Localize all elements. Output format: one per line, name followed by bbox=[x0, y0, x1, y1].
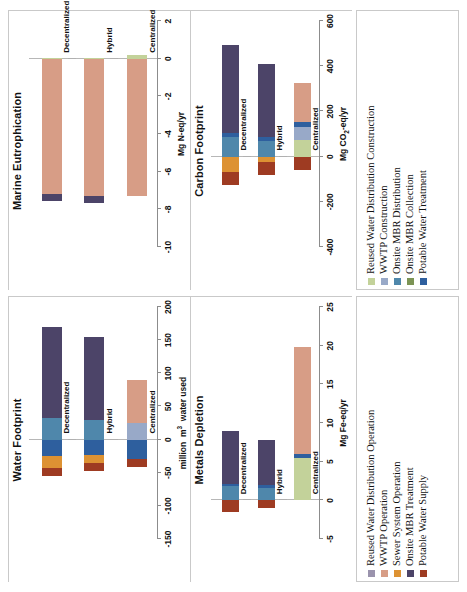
legend-item[interactable]: Potable Water Supply bbox=[417, 303, 429, 577]
axis-tick-label: -8 bbox=[163, 193, 173, 225]
chart-title: Marine Eutrophication bbox=[11, 11, 23, 291]
chart-title: Water Footprint bbox=[11, 297, 23, 583]
axis-tick-label: 200 bbox=[325, 95, 335, 127]
axis-tick-label: 200 bbox=[163, 291, 173, 323]
bar-segment bbox=[258, 440, 275, 486]
legend-item[interactable]: Onsite MBR Distribution bbox=[391, 17, 403, 285]
axis-tick bbox=[157, 133, 161, 134]
bar-segment bbox=[222, 137, 239, 156]
bar-segment bbox=[294, 454, 311, 458]
category-tick bbox=[243, 499, 251, 500]
axis-tick bbox=[319, 499, 323, 500]
legend-label: Onsite MBR Distribution bbox=[391, 167, 403, 274]
bar-segment bbox=[222, 157, 239, 173]
legend-item[interactable]: Reused Water Distribution Operation bbox=[365, 303, 377, 577]
axis-tick-label: 5 bbox=[325, 446, 335, 478]
legend-item[interactable]: Potable Water Treatment bbox=[417, 17, 429, 285]
bar-segment bbox=[84, 59, 104, 196]
legend-swatch-icon bbox=[394, 570, 401, 577]
panel-marine-eutrophication: Marine EutrophicationDecentralizedHybrid… bbox=[8, 10, 190, 290]
axis-tick-label: 600 bbox=[325, 5, 335, 37]
axis-tick bbox=[157, 505, 161, 506]
bar-segment bbox=[258, 500, 275, 508]
legend-swatch-icon bbox=[420, 570, 427, 577]
legend-item[interactable]: Onsite MBR Collection bbox=[404, 17, 416, 285]
bar-segment bbox=[258, 141, 275, 157]
category-label: Decentralized bbox=[62, 1, 71, 53]
bar-segment bbox=[84, 463, 104, 471]
axis-tick-label: -2 bbox=[163, 80, 173, 112]
axis-tick-label: 400 bbox=[325, 50, 335, 82]
category-label: Decentralized bbox=[62, 382, 71, 434]
bar-segment bbox=[258, 137, 275, 141]
legend-label: WWTP Construction bbox=[378, 185, 390, 274]
bar-group bbox=[258, 21, 275, 247]
axis-title: Mg N-eq/yr bbox=[176, 21, 186, 247]
bar-segment bbox=[42, 418, 62, 440]
bar-segment bbox=[222, 133, 239, 137]
value-axis bbox=[319, 21, 320, 247]
category-tick bbox=[110, 58, 118, 59]
axis-tick bbox=[319, 110, 323, 111]
legend-item[interactable]: Reused Water Distribution Construction bbox=[365, 17, 377, 285]
axis-tick bbox=[319, 20, 323, 21]
legend-item[interactable]: Sewer System Operation bbox=[391, 303, 403, 577]
axis-tick bbox=[319, 246, 323, 247]
axis-tick bbox=[157, 208, 161, 209]
axis-tick-label: -400 bbox=[325, 231, 335, 263]
axis-tick-label: -10 bbox=[163, 231, 173, 263]
axis-tick-label: 0 bbox=[163, 424, 173, 456]
category-tick bbox=[68, 439, 76, 440]
category-label: Hybrid bbox=[275, 469, 284, 494]
legend-construction-items: Reused Water Distribution ConstructionWW… bbox=[357, 11, 460, 291]
legend-swatch-icon bbox=[407, 278, 414, 285]
bar-segment bbox=[258, 485, 275, 488]
plot-area bbox=[211, 21, 319, 247]
axis-tick-label: 20 bbox=[325, 330, 335, 362]
legend-label: Onsite MBR Treatment bbox=[404, 467, 416, 566]
bar-segment bbox=[294, 127, 311, 139]
figure-page: Marine EutrophicationDecentralizedHybrid… bbox=[0, 0, 467, 592]
bar-segment bbox=[222, 484, 239, 487]
axis-tick bbox=[157, 246, 161, 247]
legend-label: Onsite MBR Collection bbox=[404, 174, 416, 274]
legend-swatch-icon bbox=[368, 278, 375, 285]
legend-label: WWTP Operation bbox=[378, 490, 390, 566]
axis-tick-label: 50 bbox=[163, 390, 173, 422]
bar-segment bbox=[222, 486, 239, 500]
bar-segment bbox=[84, 338, 104, 420]
bar-segment bbox=[42, 327, 62, 418]
axis-tick bbox=[319, 65, 323, 66]
legend-item[interactable]: Onsite MBR Treatment bbox=[404, 303, 416, 577]
axis-tick bbox=[157, 372, 161, 373]
bar-group bbox=[294, 307, 311, 539]
axis-tick bbox=[157, 339, 161, 340]
bar-group bbox=[42, 307, 62, 539]
axis-tick-label: -100 bbox=[163, 490, 173, 522]
legend-label: Potable Water Supply bbox=[417, 475, 429, 566]
category-label: Decentralized bbox=[239, 99, 248, 151]
legend-item[interactable]: WWTP Operation bbox=[378, 303, 390, 577]
bar-segment bbox=[42, 194, 62, 201]
chart-marine-eutrophication: Marine EutrophicationDecentralizedHybrid… bbox=[9, 11, 191, 291]
bar-group bbox=[222, 307, 239, 539]
bar-segment bbox=[258, 162, 275, 175]
axis-tick bbox=[157, 439, 161, 440]
axis-tick bbox=[319, 306, 323, 307]
legend-swatch-icon bbox=[420, 278, 427, 285]
legend-label: Sewer System Operation bbox=[391, 462, 403, 566]
bar-segment bbox=[42, 456, 62, 468]
legend-label: Reused Water Distribution Operation bbox=[365, 410, 377, 566]
axis-title: million m3 water used bbox=[176, 307, 188, 539]
axis-tick-label: 15 bbox=[325, 368, 335, 400]
bar-segment bbox=[127, 380, 147, 423]
axis-tick bbox=[157, 472, 161, 473]
axis-tick bbox=[157, 306, 161, 307]
bar-segment bbox=[127, 59, 147, 196]
legend-swatch-icon bbox=[381, 278, 388, 285]
axis-tick bbox=[157, 20, 161, 21]
bar-segment bbox=[42, 468, 62, 476]
plot-area bbox=[29, 307, 157, 539]
bar-group bbox=[42, 21, 62, 247]
legend-item[interactable]: WWTP Construction bbox=[378, 17, 390, 285]
